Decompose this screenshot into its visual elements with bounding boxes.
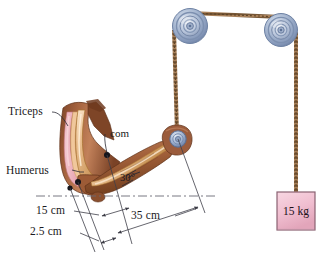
dim-leader-35 [175,208,198,216]
cord-left-strand [174,30,177,133]
label-mass: 15 kg [283,205,309,217]
dim-line-15 [102,208,129,216]
pulley-left [173,9,208,44]
label-com: com [110,128,129,139]
ext-line-hand [178,139,205,213]
physics-figure: Triceps Humerus com 30° 15 cm 2.5 cm 35 … [0,0,322,259]
pulley-right [265,14,298,47]
label-dim-35cm: 35 cm [131,210,160,222]
dim-leader-15 [74,211,99,215]
label-dim-2-5cm: 2.5 cm [30,226,62,238]
dim-line-25 [101,238,116,243]
dim-leader-25 [80,233,99,241]
label-angle: 30° [120,173,135,184]
label-dim-15cm: 15 cm [36,205,65,217]
figure-canvas [0,0,322,259]
elbow-tip [91,192,105,202]
mass-label-container: 15 kg [277,192,315,230]
label-triceps: Triceps [8,106,43,118]
label-humerus: Humerus [6,165,49,177]
